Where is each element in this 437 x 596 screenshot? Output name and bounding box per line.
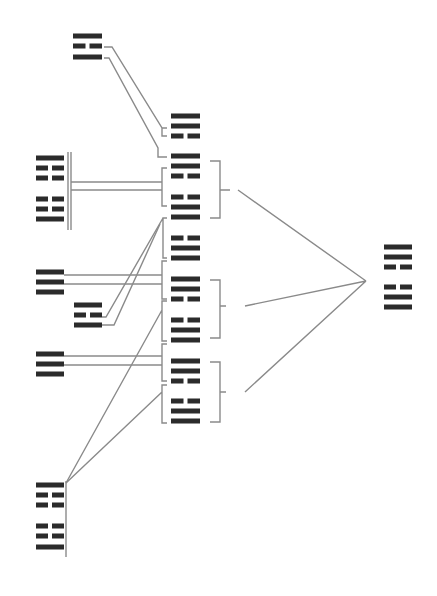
yin-line-segment: [171, 399, 184, 404]
yin-line-segment: [171, 134, 184, 139]
yang-line: [171, 369, 200, 374]
yang-line: [73, 55, 102, 60]
connector-lines: [64, 47, 366, 557]
yin-line-segment: [171, 174, 184, 179]
mid-trigram-a: [171, 114, 200, 139]
left-trigram-qian-1: [36, 270, 64, 295]
connector-line: [238, 190, 366, 392]
yin-line-segment: [74, 313, 86, 318]
yang-line: [36, 362, 64, 367]
yang-line: [171, 338, 200, 343]
yin-line-segment: [171, 236, 184, 241]
yang-line: [171, 256, 200, 261]
yin-line-segment: [73, 44, 86, 49]
yang-line: [36, 545, 64, 550]
connector-line: [71, 182, 162, 190]
yin-line-segment: [188, 134, 201, 139]
yang-line: [171, 419, 200, 424]
yin-line-segment: [52, 534, 64, 539]
yang-line: [36, 372, 64, 377]
yin-line-segment: [188, 399, 201, 404]
connector-line: [102, 218, 167, 317]
iching-diagram: [0, 0, 437, 596]
yin-line-segment: [36, 524, 48, 529]
yang-line: [36, 280, 64, 285]
yang-line: [171, 409, 200, 414]
connector-line: [66, 301, 167, 483]
yang-line: [384, 295, 412, 300]
yin-line-segment: [36, 166, 48, 171]
yin-line-segment: [188, 379, 201, 384]
yang-line: [171, 328, 200, 333]
connector-line: [210, 161, 230, 218]
yin-line-segment: [188, 195, 201, 200]
connector-line: [162, 261, 167, 299]
left-hexagram-1: [36, 156, 64, 222]
yang-line: [171, 287, 200, 292]
yin-line-segment: [36, 176, 48, 181]
yin-line-segment: [90, 313, 102, 318]
yang-line: [36, 156, 64, 161]
yin-line-segment: [384, 265, 396, 270]
yang-line: [384, 245, 412, 250]
yang-line: [74, 323, 102, 328]
yin-line-segment: [36, 503, 48, 508]
mid-group1-lower: [171, 195, 200, 220]
yin-line-segment: [52, 207, 64, 212]
right-hexagram: [384, 245, 412, 310]
yin-line-segment: [52, 524, 64, 529]
yin-line-segment: [188, 318, 201, 323]
yang-line: [74, 303, 102, 308]
yin-line-segment: [188, 174, 201, 179]
mid-group2-lower: [171, 318, 200, 333]
yin-line-segment: [52, 503, 64, 508]
connector-line: [66, 385, 167, 483]
connector-line: [68, 152, 71, 230]
yin-line-segment: [52, 493, 64, 498]
small-trigram: [74, 303, 102, 328]
mid-trigram-b: [171, 236, 200, 261]
connector-line: [104, 47, 167, 136]
yin-line-segment: [188, 297, 201, 302]
yang-line: [171, 124, 200, 129]
bottom-left-hexagram: [36, 483, 64, 550]
mid-group1-top-line: [171, 154, 200, 159]
yin-line-segment: [52, 166, 64, 171]
mid-group1-upper: [171, 164, 200, 179]
yang-line: [171, 205, 200, 210]
connector-line: [162, 168, 167, 206]
yang-line: [36, 290, 64, 295]
mid-group3-lower: [171, 399, 200, 424]
top-left-trigram: [73, 34, 102, 60]
mid-group2-upper: [171, 277, 200, 302]
yin-line-segment: [36, 534, 48, 539]
yang-line: [171, 154, 200, 159]
yang-line: [36, 270, 64, 275]
yin-line-segment: [52, 176, 64, 181]
mid-group3-upper: [171, 359, 200, 384]
yin-line-segment: [36, 197, 48, 202]
yang-line: [384, 305, 412, 310]
connector-line: [162, 344, 167, 381]
yin-line-segment: [400, 265, 412, 270]
connector-line: [64, 356, 162, 365]
yang-line: [171, 215, 200, 220]
yin-line-segment: [171, 195, 184, 200]
yang-line: [36, 217, 64, 222]
yin-line-segment: [400, 285, 412, 290]
yang-line: [171, 246, 200, 251]
yin-line-segment: [171, 379, 184, 384]
yang-line: [171, 114, 200, 119]
yin-line-segment: [188, 236, 201, 241]
yang-line: [171, 164, 200, 169]
left-trigram-qian-2: [36, 352, 64, 377]
yang-line: [36, 483, 64, 488]
connector-line: [64, 275, 162, 284]
yang-line: [384, 255, 412, 260]
mid-group3-top-line: [171, 338, 200, 343]
yang-line: [36, 352, 64, 357]
yang-line: [73, 34, 102, 39]
connector-line: [104, 58, 167, 157]
yin-line-segment: [52, 197, 64, 202]
yin-line-segment: [384, 285, 396, 290]
